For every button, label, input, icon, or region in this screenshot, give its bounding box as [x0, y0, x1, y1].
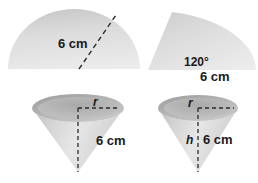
geometry-figure — [0, 0, 258, 183]
cone-right-slant-label: 6 cm — [203, 133, 233, 146]
cone-left-slant-label: 6 cm — [96, 134, 126, 147]
cone-left-radius-label: r — [93, 96, 98, 108]
semicircle-radius-label: 6 cm — [58, 37, 88, 50]
figure-root: 6 cm 120° 6 cm r 6 cm r h 6 cm — [0, 0, 258, 183]
sector-angle-label: 120° — [184, 56, 209, 68]
cone-right-height-label: h — [186, 134, 193, 146]
sector-radius-label: 6 cm — [200, 70, 230, 83]
cone-right-radius-label: r — [188, 97, 193, 109]
